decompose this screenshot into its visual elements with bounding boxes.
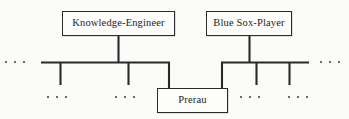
ellipsis-dot	[124, 96, 126, 98]
taxonomy-diagram: Knowledge-Engineer Blue Sox-Player Prera…	[0, 0, 349, 119]
node-prerau-label: Prerau	[178, 95, 206, 106]
ellipsis-dot	[320, 61, 322, 63]
ellipsis-dot	[14, 61, 16, 63]
ellipsis-dot	[5, 61, 7, 63]
node-knowledge-engineer-label: Knowledge-Engineer	[72, 18, 165, 29]
node-prerau: Prerau	[157, 88, 228, 113]
node-knowledge-engineer: Knowledge-Engineer	[62, 11, 175, 36]
ellipsis-lower-left-continuation-b	[115, 96, 135, 98]
ellipsis-dot	[306, 96, 308, 98]
ellipsis-dot	[258, 96, 260, 98]
ellipsis-lower-right-continuation-a	[240, 96, 260, 98]
ellipsis-dot	[56, 96, 58, 98]
node-blue-sox-player-label: Blue Sox-Player	[213, 18, 284, 29]
ellipsis-lower-right-continuation-b	[288, 96, 308, 98]
ellipsis-dot	[329, 61, 331, 63]
ellipsis-left-rail-continuation	[5, 61, 25, 63]
ellipsis-dot	[115, 96, 117, 98]
ellipsis-dot	[23, 61, 25, 63]
ellipsis-lower-left-continuation-a	[47, 96, 67, 98]
ellipsis-dot	[338, 61, 340, 63]
ellipsis-dot	[249, 96, 251, 98]
node-blue-sox-player: Blue Sox-Player	[206, 11, 292, 36]
ellipsis-dot	[133, 96, 135, 98]
ellipsis-dot	[297, 96, 299, 98]
ellipsis-dot	[65, 96, 67, 98]
ellipsis-dot	[47, 96, 49, 98]
ellipsis-dot	[240, 96, 242, 98]
ellipsis-dot	[288, 96, 290, 98]
ellipsis-right-rail-continuation	[320, 61, 340, 63]
